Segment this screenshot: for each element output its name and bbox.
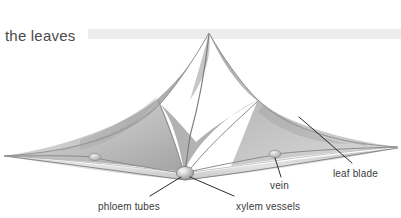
leaf-illustration [0, 0, 401, 218]
leader-line-xylem-vessels [190, 177, 234, 196]
node-left [89, 153, 101, 160]
leaf-shading-apex [190, 34, 210, 100]
node-right [269, 150, 281, 158]
leader-line-phloem-tubes [150, 177, 181, 196]
label-xylem-vessels: xylem vessels [236, 201, 300, 212]
leaf-body [4, 33, 398, 180]
node-center-highlight [180, 169, 187, 174]
label-vein: vein [270, 180, 289, 191]
label-phloem-tubes: phloem tubes [98, 201, 160, 212]
label-leaf-blade: leaf blade [333, 168, 378, 179]
leaf-diagram-figure: the leaves [0, 0, 401, 218]
